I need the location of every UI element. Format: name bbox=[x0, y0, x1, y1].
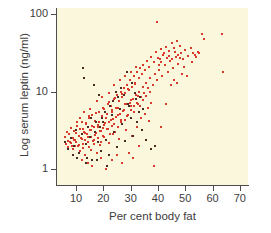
data-point bbox=[163, 52, 165, 54]
data-point bbox=[111, 159, 113, 161]
data-point bbox=[81, 133, 83, 135]
data-point bbox=[123, 87, 125, 89]
data-point bbox=[108, 101, 110, 103]
data-point bbox=[108, 121, 110, 123]
data-point bbox=[176, 82, 178, 84]
data-point bbox=[96, 152, 98, 154]
data-point bbox=[91, 114, 93, 116]
data-point bbox=[120, 119, 122, 121]
data-point bbox=[173, 47, 175, 49]
data-point bbox=[91, 165, 93, 167]
data-point bbox=[64, 141, 66, 143]
data-point bbox=[146, 60, 148, 62]
data-point bbox=[119, 108, 121, 110]
x-axis-title: Per cent body fat bbox=[57, 210, 248, 222]
data-point bbox=[142, 64, 144, 66]
data-point bbox=[181, 73, 183, 75]
data-point bbox=[88, 146, 90, 148]
data-point bbox=[144, 113, 146, 115]
data-point bbox=[100, 157, 102, 159]
y-axis-tick-label: 10 bbox=[36, 86, 48, 97]
x-axis-tick-label: 70 bbox=[228, 193, 252, 204]
data-point bbox=[153, 165, 155, 167]
data-point bbox=[195, 56, 197, 58]
data-point bbox=[113, 123, 115, 125]
data-point bbox=[159, 58, 161, 60]
data-point bbox=[165, 46, 167, 48]
data-point bbox=[126, 115, 128, 117]
data-point bbox=[108, 142, 110, 144]
data-point bbox=[86, 133, 88, 135]
data-point bbox=[93, 143, 95, 145]
data-point bbox=[121, 162, 123, 164]
scatter-plot-figure: 11010010203040506070 Per cent body fat L… bbox=[0, 0, 271, 233]
data-point bbox=[150, 148, 152, 150]
data-point bbox=[81, 159, 83, 161]
data-point bbox=[184, 49, 186, 51]
data-point bbox=[201, 33, 203, 35]
data-point bbox=[182, 58, 184, 60]
data-point bbox=[186, 75, 188, 77]
data-point bbox=[106, 113, 108, 115]
data-point bbox=[76, 125, 78, 127]
data-point bbox=[148, 120, 150, 122]
x-axis-tick bbox=[103, 186, 104, 191]
data-point bbox=[149, 91, 151, 93]
data-point bbox=[154, 73, 156, 75]
data-point bbox=[150, 56, 152, 58]
data-point bbox=[76, 157, 78, 159]
data-point bbox=[167, 71, 169, 73]
data-point bbox=[203, 38, 205, 40]
data-point bbox=[165, 103, 167, 105]
data-point bbox=[104, 111, 106, 113]
data-point bbox=[124, 103, 126, 105]
data-point bbox=[168, 55, 170, 57]
data-point bbox=[117, 126, 119, 128]
data-point bbox=[96, 159, 98, 161]
data-point bbox=[112, 133, 114, 135]
data-point bbox=[116, 146, 118, 148]
data-point bbox=[94, 134, 96, 136]
data-point bbox=[147, 87, 149, 89]
data-point bbox=[84, 132, 86, 134]
data-point bbox=[75, 141, 77, 143]
data-point bbox=[139, 96, 141, 98]
data-point bbox=[132, 157, 134, 159]
data-point bbox=[176, 40, 178, 42]
data-point bbox=[109, 133, 111, 135]
data-point bbox=[76, 121, 78, 123]
data-point bbox=[160, 61, 162, 63]
data-point bbox=[120, 87, 122, 89]
data-point bbox=[180, 52, 182, 54]
data-point bbox=[72, 148, 74, 150]
data-point bbox=[123, 94, 125, 96]
data-point bbox=[134, 92, 136, 94]
data-point bbox=[166, 57, 168, 59]
data-point bbox=[145, 95, 147, 97]
data-point bbox=[100, 130, 102, 132]
y-axis-tick-label: 100 bbox=[30, 8, 48, 19]
data-point bbox=[190, 47, 192, 49]
data-point bbox=[101, 117, 103, 119]
data-point bbox=[67, 148, 69, 150]
data-point bbox=[81, 121, 83, 123]
data-point bbox=[95, 121, 97, 123]
data-point bbox=[112, 100, 114, 102]
data-point bbox=[177, 54, 179, 56]
x-axis-tick-label: 20 bbox=[91, 193, 115, 204]
data-point bbox=[126, 71, 128, 73]
data-point bbox=[179, 45, 181, 47]
data-point bbox=[68, 133, 70, 135]
data-point bbox=[107, 128, 109, 130]
data-point bbox=[147, 107, 149, 109]
x-axis-tick bbox=[158, 186, 159, 191]
data-point bbox=[110, 119, 112, 121]
data-point bbox=[113, 84, 115, 86]
data-point bbox=[133, 111, 135, 113]
data-point bbox=[148, 66, 150, 68]
data-point bbox=[106, 165, 108, 167]
data-point bbox=[154, 145, 156, 147]
data-point bbox=[102, 121, 104, 123]
data-point bbox=[124, 75, 126, 77]
data-point bbox=[130, 71, 132, 73]
